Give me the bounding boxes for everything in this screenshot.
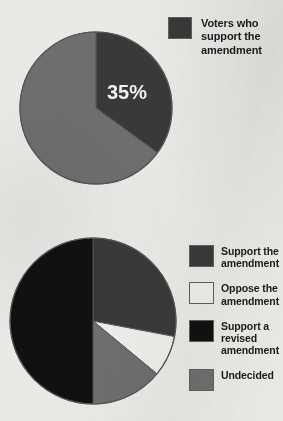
pie-top-svg: 35% (19, 31, 173, 185)
pie-bottom-svg (9, 237, 177, 405)
legend-label-oppose-amendment: Oppose the amendment (221, 282, 279, 306)
legend-swatch-support-amendment (189, 245, 214, 267)
pie-chart-top: 35% Voters who support the amendment (0, 0, 283, 210)
legend-item-undecided[interactable]: Undecided (189, 369, 279, 391)
legend-swatch-oppose-amendment (189, 282, 214, 304)
legend-top: Voters who support the amendment (168, 17, 262, 68)
legend-item-support-amendment[interactable]: Support the amendment (189, 245, 279, 269)
legend-label-support-amendment: Support the amendment (221, 245, 279, 269)
legend-item-oppose-amendment[interactable]: Oppose the amendment (189, 282, 279, 306)
pie-slice-value-label: 35% (107, 81, 147, 103)
legend-label-undecided: Undecided (221, 369, 274, 381)
pie-slice[interactable] (10, 238, 93, 404)
legend-item-revised-amendment[interactable]: Support a revised amendment (189, 320, 279, 357)
legend-swatch-revised-amendment (189, 320, 214, 342)
legend-item-voters-support[interactable]: Voters who support the amendment (168, 17, 262, 57)
pie-chart-bottom: Support the amendment Oppose the amendme… (0, 210, 283, 421)
legend-swatch-voters-support (168, 17, 192, 39)
legend-label-voters-support: Voters who support the amendment (201, 17, 262, 57)
pie-top-graphic: 35% (19, 31, 173, 185)
pie-slice[interactable] (93, 238, 176, 337)
legend-swatch-undecided (189, 369, 214, 391)
legend-label-revised-amendment: Support a revised amendment (221, 320, 279, 357)
legend-bottom: Support the amendment Oppose the amendme… (189, 245, 279, 404)
pie-bottom-graphic (9, 237, 177, 405)
